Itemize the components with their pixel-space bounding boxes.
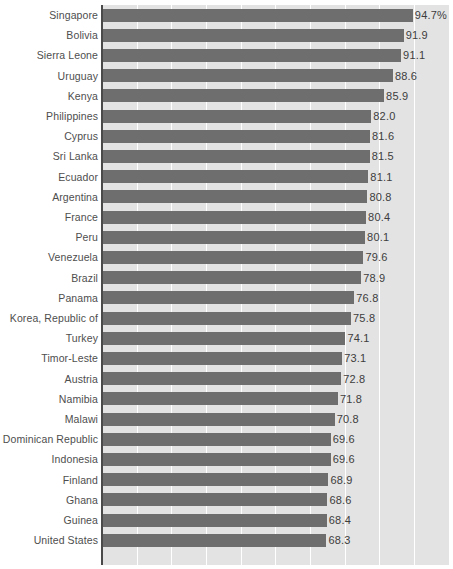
category-label: Turkey [66, 328, 98, 348]
bar [103, 130, 370, 143]
bar-value-label: 80.8 [369, 187, 391, 207]
category-label: Sierra Leone [37, 45, 98, 65]
category-label: Uruguay [58, 66, 98, 86]
category-label: Austria [65, 369, 98, 389]
bar [103, 150, 370, 163]
bar-row: Peru80.1 [0, 227, 453, 247]
category-label: Bolivia [66, 25, 98, 45]
bar [103, 29, 404, 42]
bar-value-label: 73.1 [344, 348, 366, 368]
bar-row: Uruguay88.6 [0, 66, 453, 86]
category-label: Ghana [66, 490, 98, 510]
bar-row: Panama76.8 [0, 288, 453, 308]
bar-value-label: 91.9 [406, 25, 428, 45]
bar [103, 433, 331, 446]
bar [103, 190, 367, 203]
bar [103, 493, 327, 506]
bar-row: Dominican Republic69.6 [0, 429, 453, 449]
category-label: Singapore [49, 5, 98, 25]
category-label: Philippines [46, 106, 98, 126]
bar-row: France80.4 [0, 207, 453, 227]
bar-value-label: 69.6 [333, 449, 355, 469]
bar-row: Venezuela79.6 [0, 247, 453, 267]
category-label: Timor-Leste [41, 348, 98, 368]
bar [103, 89, 384, 102]
bar-rows: Singapore94.7%Bolivia91.9Sierra Leone91.… [0, 0, 453, 569]
bar [103, 352, 342, 365]
category-label: Ecuador [58, 167, 98, 187]
bar-value-label: 68.6 [329, 490, 351, 510]
bar-row: Finland68.9 [0, 470, 453, 490]
bar-row: Cyprus81.6 [0, 126, 453, 146]
bar-row: Ghana68.6 [0, 490, 453, 510]
bar-row: Korea, Republic of75.8 [0, 308, 453, 328]
category-label: Guinea [64, 510, 98, 530]
category-label: Brazil [71, 268, 98, 288]
bar [103, 110, 371, 123]
category-label: Sri Lanka [53, 146, 98, 166]
category-label: Namibia [59, 389, 98, 409]
bar [103, 473, 328, 486]
category-label: Peru [75, 227, 98, 247]
bar-value-label: 71.8 [340, 389, 362, 409]
bar-row: Singapore94.7% [0, 5, 453, 25]
bar-value-label: 68.9 [330, 470, 352, 490]
bar-row: Austria72.8 [0, 369, 453, 389]
category-label: Panama [58, 288, 98, 308]
category-label: Cyprus [64, 126, 98, 146]
bar-value-label: 74.1 [347, 328, 369, 348]
category-label: Venezuela [48, 247, 98, 267]
bar-row: Sri Lanka81.5 [0, 146, 453, 166]
bar-row: Guinea68.4 [0, 510, 453, 530]
bar-row: Sierra Leone91.1 [0, 45, 453, 65]
bar-row: United States68.3 [0, 530, 453, 550]
bar [103, 312, 351, 325]
bar-value-label: 91.1 [403, 45, 425, 65]
bar-value-label: 85.9 [386, 86, 408, 106]
bar-row: Namibia71.8 [0, 389, 453, 409]
bar-row: Argentina80.8 [0, 187, 453, 207]
bar-chart: Singapore94.7%Bolivia91.9Sierra Leone91.… [0, 0, 453, 569]
bar-row: Malawi70.8 [0, 409, 453, 429]
bar [103, 534, 326, 547]
bar [103, 231, 365, 244]
bar-value-label: 78.9 [363, 268, 385, 288]
bar-value-label: 70.8 [337, 409, 359, 429]
bar-value-label: 81.6 [372, 126, 394, 146]
category-label: Kenya [68, 86, 98, 106]
bar-row: Brazil78.9 [0, 268, 453, 288]
bar-value-label: 68.3 [328, 530, 350, 550]
bar-value-label: 72.8 [343, 369, 365, 389]
bar-row: Ecuador81.1 [0, 167, 453, 187]
bar-value-label: 80.1 [367, 227, 389, 247]
bar [103, 372, 341, 385]
category-label: Malawi [65, 409, 98, 429]
category-label: Finland [63, 470, 98, 490]
bar [103, 251, 363, 264]
bar-value-label: 79.6 [365, 247, 387, 267]
bar-value-label: 80.4 [368, 207, 390, 227]
bar-row: Philippines82.0 [0, 106, 453, 126]
bar [103, 211, 366, 224]
bar [103, 453, 331, 466]
bar-value-label: 81.5 [372, 146, 394, 166]
bar-value-label: 76.8 [356, 288, 378, 308]
bar [103, 49, 401, 62]
bar-value-label: 75.8 [353, 308, 375, 328]
bar-row: Timor-Leste73.1 [0, 348, 453, 368]
bar-value-label: 88.6 [395, 66, 417, 86]
bar-value-label: 68.4 [329, 510, 351, 530]
bar [103, 514, 327, 527]
bar-row: Bolivia91.9 [0, 25, 453, 45]
category-label: France [65, 207, 98, 227]
bar-value-label: 69.6 [333, 429, 355, 449]
category-label: Korea, Republic of [10, 308, 98, 328]
bar [103, 392, 338, 405]
bar-value-label: 82.0 [373, 106, 395, 126]
bar-row: Indonesia69.6 [0, 449, 453, 469]
category-label: United States [34, 530, 98, 550]
bar [103, 170, 368, 183]
bar-value-label: 94.7% [415, 5, 447, 25]
bar-row: Turkey74.1 [0, 328, 453, 348]
bar [103, 271, 361, 284]
